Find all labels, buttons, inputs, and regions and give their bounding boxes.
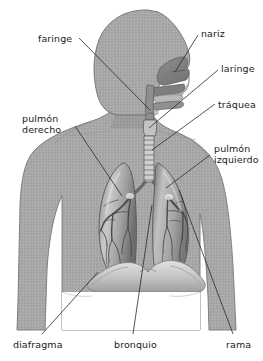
- label-nariz-line1: nariz: [201, 28, 225, 39]
- label-bronquio: bronquio: [114, 339, 157, 350]
- label-traquea-line1: tráquea: [218, 99, 256, 110]
- hilum-right: [126, 193, 134, 199]
- label-faringe: faringe: [38, 33, 72, 44]
- label-pulmon-derecho-line2: derecho: [22, 124, 61, 135]
- label-laringe-line1: laringe: [221, 63, 255, 74]
- anatomy-illustration: [0, 0, 263, 361]
- label-pulmon-izquierdo-line2: izquierdo: [214, 154, 259, 165]
- label-diafragma: diafragma: [13, 339, 63, 350]
- hilum-left: [165, 194, 173, 200]
- label-pulmon-derecho-line1: pulmón: [22, 113, 58, 124]
- respiratory-system-figure: faringe nariz laringe tráquea pulmón der…: [0, 0, 263, 361]
- label-pulmon-derecho: pulmón derecho: [22, 113, 61, 135]
- label-rama-line1: rama: [226, 339, 251, 350]
- label-diafragma-line1: diafragma: [13, 339, 63, 350]
- label-laringe: laringe: [221, 63, 255, 74]
- pharynx: [146, 85, 154, 120]
- label-bronquio-line1: bronquio: [114, 339, 157, 350]
- abdomen-fade: [62, 292, 200, 330]
- label-pulmon-izquierdo-line1: pulmón: [214, 143, 250, 154]
- label-pulmon-izquierdo: pulmón izquierdo: [214, 143, 259, 165]
- label-nariz: nariz: [201, 28, 225, 39]
- label-traquea: tráquea: [218, 99, 256, 110]
- label-rama: rama: [226, 339, 251, 350]
- label-faringe-line1: faringe: [38, 33, 72, 44]
- larynx: [143, 120, 156, 136]
